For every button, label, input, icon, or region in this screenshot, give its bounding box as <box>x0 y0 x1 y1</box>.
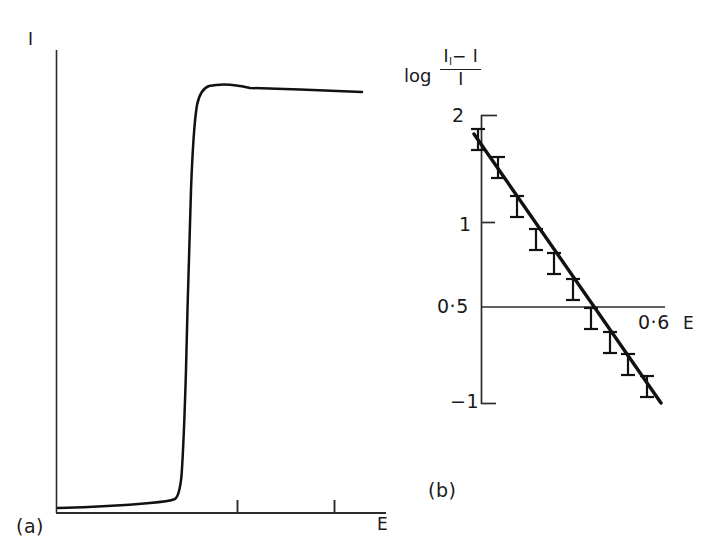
panel-b-x-axis-label: E <box>683 315 694 332</box>
panel-b-fraction-numerator: Il− I <box>440 48 481 69</box>
data-point-3 <box>510 196 524 217</box>
figure-root: I E (a) log Il− I I 2 1 0·5 −1 0·6 E (b) <box>0 0 713 558</box>
panel-b-y-tick-label-0-5: 0·5 <box>437 297 469 316</box>
panel-a-group <box>56 50 386 513</box>
panel-b-log-word: log <box>404 65 431 86</box>
panel-b-y-tick-label-2: 2 <box>452 106 465 125</box>
panel-b-fraction-denominator: I <box>455 70 466 89</box>
panel-b-numerator-rest: − I <box>452 46 478 66</box>
panel-b-y-tick-label-minus-1: −1 <box>450 392 479 411</box>
data-point-10 <box>640 376 654 397</box>
panel-b-group <box>471 115 665 404</box>
panel-a-curve <box>58 85 362 508</box>
panel-b-y-tick-label-1: 1 <box>459 215 472 234</box>
figure-canvas <box>0 0 713 558</box>
panel-a-tag: (a) <box>16 517 44 536</box>
panel-b-y-axis-label: log Il− I I <box>404 48 481 89</box>
panel-b-fit-line <box>474 134 661 403</box>
panel-b-fraction: Il− I I <box>440 48 481 89</box>
panel-a-y-axis-label: I <box>28 31 33 48</box>
panel-b-x-tick-label-0-6: 0·6 <box>638 313 670 332</box>
panel-b-tag: (b) <box>428 481 456 500</box>
panel-a-x-axis-label: E <box>377 516 388 533</box>
